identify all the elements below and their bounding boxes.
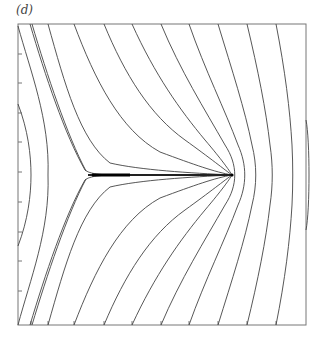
axis-ticks	[18, 54, 276, 325]
streamline-plot	[0, 0, 321, 341]
